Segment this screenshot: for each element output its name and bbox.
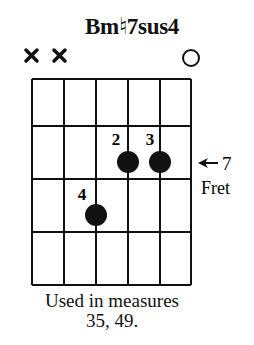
finger-number: 3 bbox=[146, 130, 155, 149]
finger-dot bbox=[149, 151, 171, 173]
open-string-icon bbox=[183, 50, 199, 66]
fret-number: 7 bbox=[222, 153, 232, 174]
caption: Used in measures 35, 49. bbox=[0, 291, 224, 331]
fretboard-grid bbox=[32, 79, 191, 285]
finger-number: 4 bbox=[78, 185, 87, 204]
finger-number: 2 bbox=[112, 130, 121, 149]
muted-string-icon bbox=[54, 50, 65, 61]
caption-measures: 35, 49. bbox=[0, 311, 224, 331]
caption-line-1: Used in measures bbox=[0, 291, 224, 311]
arrow-left-icon bbox=[198, 158, 218, 168]
fret-label: Fret bbox=[201, 178, 230, 198]
finger-dot bbox=[117, 151, 139, 173]
muted-string-icon bbox=[26, 50, 37, 61]
finger-dot bbox=[85, 204, 107, 226]
